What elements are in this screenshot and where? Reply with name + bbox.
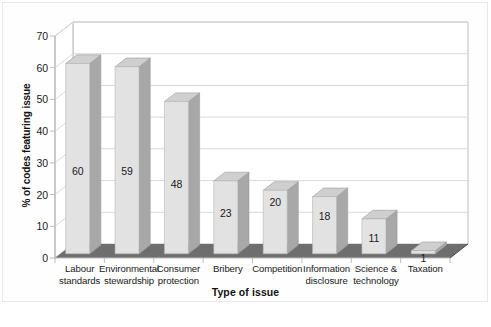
bar-side-face	[90, 55, 101, 254]
y-tick-label-40: 40	[22, 125, 48, 137]
caption-sliver	[40, 317, 460, 325]
x-category-label-7: Taxation	[391, 263, 459, 275]
bar-front-face	[115, 67, 139, 254]
bar-value-label: 11	[354, 232, 394, 244]
bar-front-face	[313, 197, 337, 254]
x-category-line: protection	[144, 275, 212, 287]
bar-value-label: 20	[255, 196, 295, 208]
bar-2	[164, 93, 199, 254]
x-category-line: technology	[342, 275, 410, 287]
y-tick-label-30: 30	[22, 157, 48, 169]
bar-front-face	[66, 64, 90, 254]
y-tick-label-50: 50	[22, 93, 48, 105]
bar-side-face	[287, 182, 298, 254]
bar-value-label: 59	[107, 165, 147, 177]
bar-value-label: 60	[58, 165, 98, 177]
chart-figure: % of codes featuring issue Type of issue…	[0, 0, 491, 327]
y-tick-label-10: 10	[22, 220, 48, 232]
bar-1	[115, 58, 150, 254]
bar-value-label: 48	[156, 178, 196, 190]
bar-0	[66, 55, 101, 254]
bar-value-label: 23	[206, 207, 246, 219]
bar-value-label: 18	[305, 210, 345, 222]
y-tick-label-0: 0	[22, 252, 48, 264]
x-category-line: Taxation	[391, 263, 459, 275]
bar-side-face	[139, 58, 150, 254]
y-tick-label-60: 60	[22, 62, 48, 74]
bar-4	[263, 182, 298, 254]
x-axis-title: Type of issue	[0, 286, 491, 298]
y-tick-label-20: 20	[22, 189, 48, 201]
bar-side-face	[188, 93, 199, 254]
bar-value-label: 1	[403, 252, 443, 264]
y-tick-label-70: 70	[22, 30, 48, 42]
